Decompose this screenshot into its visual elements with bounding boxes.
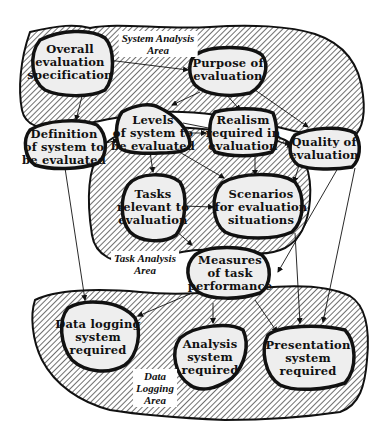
node-overall: Overall evaluation specification — [27, 43, 112, 82]
node-definition: Definition of system to be evaluated — [22, 128, 106, 167]
node-analysis: Analysis system required — [181, 338, 238, 377]
node-levels: Levels of system to be evaluated — [111, 114, 195, 153]
node-datalog: Data logging system required — [55, 318, 140, 357]
edge-definition-datalog — [65, 168, 85, 300]
node-quality: Quality of evaluation — [289, 136, 358, 162]
area-label-data-logging: Data Logging Area — [133, 369, 177, 407]
node-scenarios: Scenarios for evaluation situations — [215, 188, 308, 227]
node-realism: Realism required in evaluation — [206, 114, 281, 153]
node-measures: Measures of task performance — [188, 254, 273, 293]
node-purpose: Purpose of evaluation — [192, 57, 263, 83]
node-presentation: Presentation system required — [265, 339, 350, 378]
area-label-task-analysis: Task Analysis Area — [111, 251, 179, 277]
area-label-system-analysis: System Analysis Area — [119, 31, 198, 57]
node-tasks: Tasks relevant to evaluation — [117, 188, 189, 227]
